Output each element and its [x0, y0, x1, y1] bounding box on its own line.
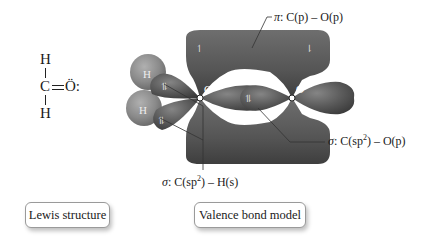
- oxygen-nucleus: [289, 95, 295, 101]
- sigma-co-bond-label: σ: C(sp2) – O(p): [328, 133, 406, 149]
- atom-label-c: C: [204, 83, 211, 95]
- valence-bond-model-caption: Valence bond model: [194, 202, 306, 228]
- atom-label-o: O: [296, 83, 304, 95]
- atom-label-h2: H: [139, 104, 147, 116]
- atom-label-h1: H: [143, 68, 151, 80]
- lewis-structure-caption: Lewis structure: [25, 202, 110, 228]
- electron-pair-co-sigma: ⥮: [244, 93, 252, 104]
- carbon-nucleus: [197, 95, 203, 101]
- electron-pi-up: ↿: [195, 43, 203, 54]
- electron-pi-down: ⇂: [305, 43, 313, 54]
- pi-bond-label: π: C(p) – O(p): [274, 10, 343, 25]
- electron-pair-ch-top: ⥮: [160, 81, 168, 92]
- sigma-ch-bond-label: σ: C(sp2) – H(s): [162, 174, 238, 190]
